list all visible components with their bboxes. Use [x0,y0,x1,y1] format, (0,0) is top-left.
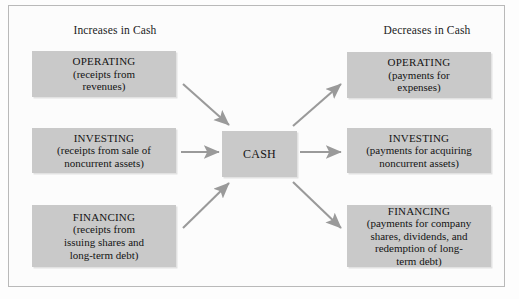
node-title: INVESTING [366,132,472,145]
column-header-decreases: Decreases in Cash [352,24,502,36]
diagram-canvas: Increases in Cash Decreases in Cash OPER… [0,0,519,299]
node-right-operating[interactable]: OPERATING (payments forexpenses) [347,52,491,98]
node-title: OPERATING [388,56,451,69]
node-cash[interactable]: CASH [222,131,297,177]
node-right-investing[interactable]: INVESTING (payments for acquiringnoncurr… [347,128,491,173]
node-detail: (payments for acquiringnoncurrent assets… [366,144,472,169]
node-detail: (receipts fromissuing shares andlong-ter… [64,223,144,261]
column-header-increases: Increases in Cash [40,24,190,36]
node-title: OPERATING [73,55,136,68]
node-left-investing[interactable]: INVESTING (receipts from sale ofnoncurre… [32,128,176,173]
node-right-financing[interactable]: FINANCING (payments for companyshares, d… [347,205,491,267]
node-detail: (payments forexpenses) [388,69,451,94]
node-detail: (receipts from sale ofnoncurrent assets) [57,144,151,169]
node-title: INVESTING [57,132,151,145]
node-left-financing[interactable]: FINANCING (receipts fromissuing shares a… [32,205,176,267]
node-detail: (payments for companyshares, dividends, … [367,217,471,267]
node-title: FINANCING [64,211,144,224]
node-detail: (receipts fromrevenues) [73,68,136,93]
node-title: CASH [243,148,276,161]
node-title: FINANCING [367,205,471,218]
node-left-operating[interactable]: OPERATING (receipts fromrevenues) [32,51,176,97]
